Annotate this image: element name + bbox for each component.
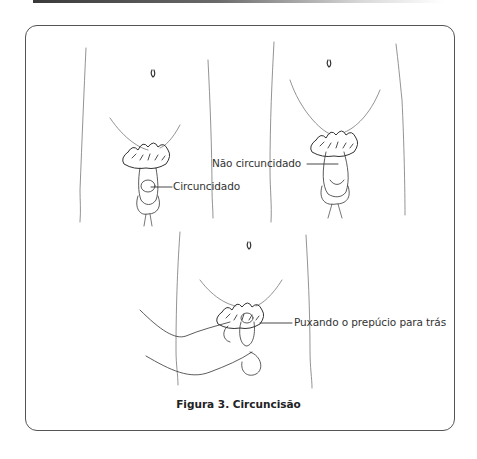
illustration-retracting-foreskin: [140, 232, 312, 388]
figure-caption: Figura 3. Circuncisão: [0, 398, 477, 410]
illustration-circumcised: [80, 48, 213, 226]
label-circumcised: Circuncidado: [173, 180, 240, 192]
circumcision-illustration: [0, 0, 477, 459]
illustration-uncircumcised: [270, 42, 405, 222]
label-retracting-foreskin: Puxando o prepúcio para trás: [294, 316, 446, 328]
label-uncircumcised: Não circuncidado: [212, 157, 301, 169]
